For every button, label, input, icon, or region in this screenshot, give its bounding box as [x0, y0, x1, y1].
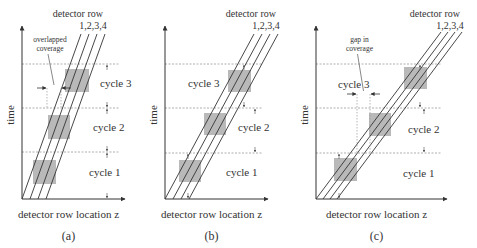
cycle-label-3: cycle 3 — [338, 78, 370, 90]
detector-row-label: detector row — [226, 8, 277, 19]
panel-b: cycle 1cycle 2cycle 3timedetector row lo… — [147, 8, 280, 243]
reconstruction-box-cycle-2 — [204, 113, 226, 135]
detector-row-numbers: 1,2,3,4 — [79, 20, 107, 31]
detector-coverage-figure: cycle 1cycle 2cycle 3timedetector row lo… — [0, 0, 477, 248]
x-axis-label: detector row location z — [326, 208, 427, 220]
detector-row-numbers: 1,2,3,4 — [436, 20, 464, 31]
coverage-leader-line — [48, 54, 54, 85]
panel-caption: (c) — [370, 229, 383, 243]
x-axis-label: detector row location z — [161, 208, 262, 220]
detector-row-line-4 — [337, 32, 462, 199]
panel-caption: (b) — [205, 229, 219, 243]
cycle-label-2: cycle 2 — [238, 121, 269, 133]
detector-row-label: detector row — [410, 8, 461, 19]
detector-row-line-3 — [330, 32, 455, 199]
reconstruction-box-cycle-1 — [179, 160, 201, 182]
cycle-label-1: cycle 1 — [403, 167, 434, 179]
panel-c: cycle 1cycle 2cycle 3timedetector row lo… — [298, 8, 464, 243]
coverage-note-line-1: overlapped — [33, 35, 67, 44]
cycle-label-1: cycle 1 — [226, 166, 257, 178]
panel-caption: (a) — [62, 229, 75, 243]
y-axis-label: time — [147, 105, 159, 125]
coverage-note-line-1: gap in — [350, 35, 369, 44]
detector-row-line-2 — [30, 34, 89, 199]
panel-a: cycle 1cycle 2cycle 3timedetector row lo… — [4, 8, 132, 243]
cycle-label-3: cycle 3 — [100, 77, 132, 89]
y-axis-label: time — [298, 105, 310, 125]
cycle-label-1: cycle 1 — [89, 166, 120, 178]
detector-row-label: detector row — [53, 8, 104, 19]
reconstruction-box-cycle-3 — [228, 70, 251, 92]
coverage-note-line-2: coverage — [346, 44, 374, 53]
cycle-label-2: cycle 2 — [408, 123, 439, 135]
y-axis-label: time — [4, 105, 16, 125]
cycle-label-2: cycle 2 — [93, 121, 124, 133]
coverage-note-line-2: coverage — [36, 44, 64, 53]
x-axis-label: detector row location z — [18, 208, 119, 220]
cycle-label-3: cycle 3 — [188, 77, 220, 89]
detector-row-numbers: 1,2,3,4 — [252, 20, 280, 31]
